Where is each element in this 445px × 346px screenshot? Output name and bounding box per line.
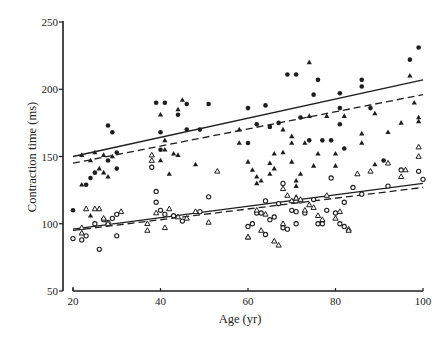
open-circle-point xyxy=(180,219,184,223)
filled-triangle-point xyxy=(272,166,277,171)
open-triangle-point xyxy=(298,197,303,202)
open-circle-point xyxy=(281,226,285,230)
filled-circle-point xyxy=(176,113,181,118)
filled-triangle-point xyxy=(307,60,312,65)
open-triangle-point xyxy=(101,216,106,221)
x-tick-label: 60 xyxy=(243,295,255,307)
open-triangle-point xyxy=(254,208,259,213)
filled-circle-point xyxy=(338,122,343,127)
open-triangle-point xyxy=(149,158,154,163)
filled-triangle-point xyxy=(385,129,390,134)
open-triangle-point xyxy=(280,186,285,191)
open-triangle-point xyxy=(385,160,390,165)
open-triangle-point xyxy=(337,209,342,214)
filled-circle-point xyxy=(329,138,334,143)
filled-triangle-point xyxy=(267,171,272,176)
filled-triangle-point xyxy=(250,167,255,172)
filled-triangle-point xyxy=(158,112,163,117)
open-triangle-point xyxy=(355,171,360,176)
filled-triangle-point xyxy=(254,174,259,179)
filled-triangle-point xyxy=(259,178,264,183)
open-triangle-point xyxy=(399,174,404,179)
open-triangle-point xyxy=(307,202,312,207)
filled-circle-point xyxy=(311,92,316,97)
x-axis-title: Age (yr) xyxy=(219,312,262,326)
filled-triangle-point xyxy=(372,162,377,167)
filled-triangle-point xyxy=(180,97,185,102)
filled-circle-point xyxy=(316,78,321,83)
open-triangle-point xyxy=(193,209,198,214)
filled-circle-point xyxy=(198,127,203,132)
open-circle-point xyxy=(172,214,176,218)
filled-triangle-point xyxy=(193,162,198,167)
open-circle-point xyxy=(84,234,88,238)
open-triangle-point xyxy=(285,193,290,198)
filled-circle-point xyxy=(158,147,163,152)
open-circle-point xyxy=(263,232,267,236)
filled-triangle-point xyxy=(105,174,110,179)
y-tick-label: 250 xyxy=(42,16,59,28)
y-tick-label: 50 xyxy=(47,285,59,297)
filled-circle-point xyxy=(338,106,343,111)
filled-circle-point xyxy=(106,158,111,163)
open-circle-point xyxy=(158,208,162,212)
filled-triangle-point xyxy=(416,119,421,124)
filled-circle-point xyxy=(254,122,259,127)
open-circle-point xyxy=(93,222,97,226)
filled-circle-point xyxy=(268,125,273,130)
filled-circle-point xyxy=(359,84,364,89)
filled-triangle-point xyxy=(272,151,277,156)
open-triangle-point xyxy=(333,216,338,221)
filled-triangle-point xyxy=(171,151,176,156)
filled-circle-point xyxy=(285,72,290,77)
open-circle-point xyxy=(110,216,114,220)
open-circle-point xyxy=(325,208,329,212)
open-circle-point xyxy=(386,184,390,188)
open-triangle-point xyxy=(263,212,268,217)
filled-triangle-point xyxy=(359,140,364,145)
filled-circle-point xyxy=(368,106,373,111)
open-triangle-point xyxy=(259,228,264,233)
open-triangle-point xyxy=(324,193,329,198)
filled-circle-point xyxy=(263,103,268,108)
open-circle-point xyxy=(320,222,324,226)
filled-triangle-point xyxy=(88,213,93,218)
open-triangle-point xyxy=(215,168,220,173)
open-triangle-point xyxy=(416,144,421,149)
filled-triangle-point xyxy=(399,120,404,125)
x-tick-label: 20 xyxy=(68,295,80,307)
filled-circle-point xyxy=(114,166,119,171)
filled-triangle-point xyxy=(311,163,316,168)
open-triangle-point xyxy=(272,238,277,243)
open-triangle-point xyxy=(315,213,320,218)
open-triangle-point xyxy=(149,152,154,157)
y-axis-title: Contraction time (ms) xyxy=(25,102,39,212)
open-circle-point xyxy=(71,236,75,240)
open-circle-point xyxy=(316,222,320,226)
open-triangle-point xyxy=(79,230,84,235)
open-triangle-point xyxy=(97,206,102,211)
filled-circle-point xyxy=(206,102,211,107)
open-circle-point xyxy=(342,224,346,228)
open-circle-point xyxy=(312,197,316,201)
open-circle-point xyxy=(294,210,298,214)
filled-circle-point xyxy=(307,138,312,143)
open-triangle-point xyxy=(79,225,84,230)
filled-triangle-point xyxy=(315,151,320,156)
filled-circle-point xyxy=(246,141,251,146)
open-circle-point xyxy=(80,238,84,242)
open-triangle-point xyxy=(162,225,167,230)
filled-triangle-point xyxy=(79,182,84,187)
filled-triangle-point xyxy=(359,131,364,136)
filled-triangle-point xyxy=(298,171,303,176)
open-circle-point xyxy=(351,185,355,189)
filled-triangle-point xyxy=(245,159,250,164)
open-triangle-point xyxy=(346,228,351,233)
open-triangle-point xyxy=(311,205,316,210)
open-circle-point xyxy=(163,212,167,216)
filled-triangle-point xyxy=(97,166,102,171)
x-tick-label: 100 xyxy=(415,295,432,307)
filled-triangle-point xyxy=(407,73,412,78)
filled-circle-point xyxy=(359,78,364,83)
open-circle-point xyxy=(417,169,421,173)
